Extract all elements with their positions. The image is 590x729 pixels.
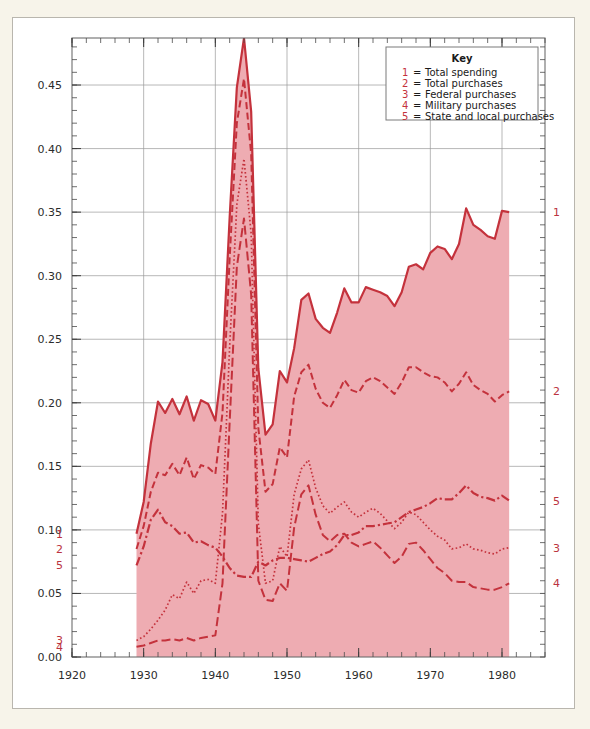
y-tick-label: 0.05: [38, 587, 63, 600]
chart-svg: 1920193019401950196019701980 0.000.050.1…: [0, 0, 590, 729]
y-tick-label: 0.35: [38, 206, 63, 219]
y-tick-label: 0.45: [38, 79, 63, 92]
key-entry-label-1: Total spending: [424, 67, 497, 78]
y-tick-label: 0.30: [38, 270, 63, 283]
series-right-labels: 12534: [553, 206, 560, 590]
series-left-label-2: 2: [56, 543, 63, 556]
key-entry-number-1: 1: [402, 67, 408, 78]
key-entry-number-5: 5: [402, 111, 408, 122]
x-tick-label: 1950: [273, 669, 301, 682]
y-tick-label: 0.25: [38, 333, 63, 346]
x-tick-label: 1960: [345, 669, 373, 682]
x-tick-label: 1940: [201, 669, 229, 682]
x-tick-label: 1920: [58, 669, 86, 682]
key-entry-number-2: 2: [402, 78, 408, 89]
series-right-label-2: 2: [553, 385, 560, 398]
y-tick-label: 0.15: [38, 460, 63, 473]
chart-key-legend: Key1=Total spending2=Total purchases3=Fe…: [386, 47, 554, 122]
key-entry-number-3: 3: [402, 89, 408, 100]
series-right-label-3: 3: [553, 542, 560, 555]
x-tick-label: 1980: [488, 669, 516, 682]
key-entry-label-2: Total purchases: [424, 78, 503, 89]
x-tick-label: 1930: [130, 669, 158, 682]
y-axis-tick-labels: 0.000.050.100.150.200.250.300.350.400.45: [38, 79, 63, 664]
key-entry-label-4: Military purchases: [425, 100, 516, 111]
series-right-label-4: 4: [553, 577, 560, 590]
chart-figure: 1920193019401950196019701980 0.000.050.1…: [0, 0, 590, 729]
x-axis-tick-labels: 1920193019401950196019701980: [58, 669, 516, 682]
series-right-label-5: 5: [553, 495, 560, 508]
x-tick-label: 1970: [416, 669, 444, 682]
series-left-label-1: 1: [56, 528, 63, 541]
key-entry-equals: =: [413, 78, 421, 89]
key-entry-equals: =: [413, 67, 421, 78]
key-entry-equals: =: [413, 111, 421, 122]
key-entry-number-4: 4: [402, 100, 408, 111]
key-title: Key: [452, 53, 473, 64]
series-right-label-1: 1: [553, 206, 560, 219]
key-entry-label-5: State and local purchases: [425, 111, 554, 122]
key-entry-equals: =: [413, 100, 421, 111]
chart-fill-area: [137, 38, 510, 657]
page-background: 1920193019401950196019701980 0.000.050.1…: [0, 0, 590, 729]
series-left-label-4: 4: [56, 641, 63, 654]
series-left-label-5: 5: [56, 559, 63, 572]
key-entry-equals: =: [413, 89, 421, 100]
key-entry-label-3: Federal purchases: [425, 89, 516, 100]
area-fill-total-spending: [137, 38, 510, 657]
y-tick-label: 0.40: [38, 143, 63, 156]
y-tick-label: 0.20: [38, 397, 63, 410]
